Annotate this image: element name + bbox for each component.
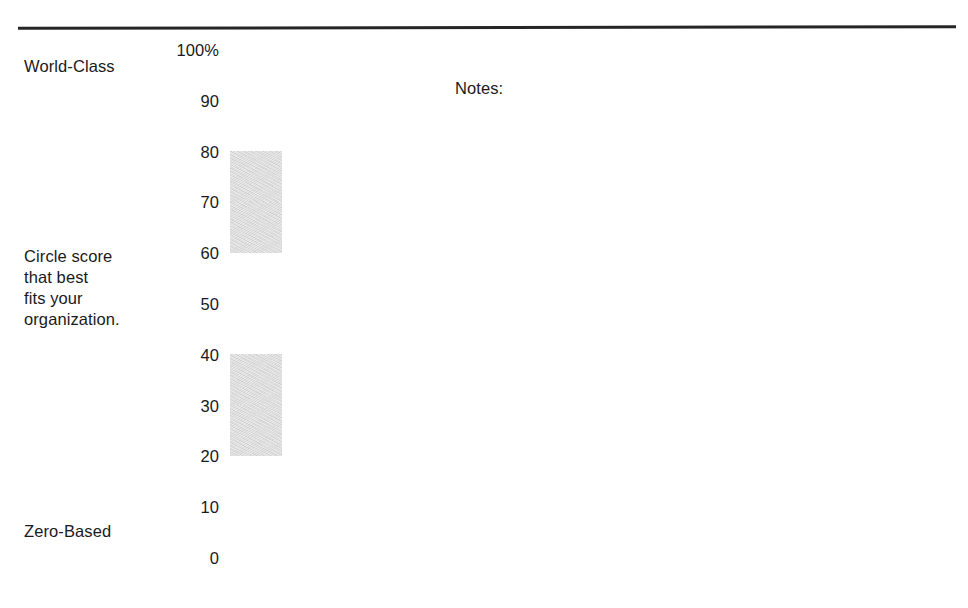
- scale-top-anchor-label: World-Class: [24, 56, 115, 77]
- scale-column[interactable]: [230, 50, 282, 558]
- scale-cell[interactable]: [230, 304, 282, 357]
- scale-tick-label: 50: [130, 294, 219, 314]
- scale-cell[interactable]: [230, 507, 282, 560]
- scale-instruction-text: Circle score that best fits your organiz…: [24, 246, 120, 330]
- scale-cell[interactable]: [230, 405, 282, 458]
- scale-cell[interactable]: [230, 253, 282, 306]
- scale-tick-labels: 100%9080706050403020100: [130, 41, 219, 557]
- scale-tick-label: 30: [130, 396, 219, 416]
- scale-tick-label: 70: [130, 192, 219, 212]
- scale-cell[interactable]: [230, 202, 282, 255]
- scale-cell[interactable]: [230, 100, 282, 153]
- scale-tick-label: 100%: [130, 40, 219, 60]
- document-page: World-Class Circle score that best fits …: [0, 0, 968, 608]
- scale-cell[interactable]: [230, 354, 282, 407]
- top-divider-rule: [18, 25, 956, 30]
- scale-cell[interactable]: [230, 151, 282, 204]
- scale-bottom-anchor-label: Zero-Based: [24, 521, 111, 542]
- scale-tick-label: 10: [130, 497, 219, 517]
- scale-tick-label: 0: [130, 548, 219, 568]
- scale-tick-label: 20: [130, 446, 219, 466]
- scale-cell[interactable]: [230, 50, 282, 103]
- notes-heading: Notes:: [455, 78, 503, 98]
- scale-tick-label: 90: [130, 91, 219, 111]
- scale-tick-label: 40: [130, 345, 219, 365]
- notes-writing-area[interactable]: [455, 104, 935, 544]
- scale-tick-label: 80: [130, 142, 219, 162]
- scale-tick-label: 60: [130, 243, 219, 263]
- scale-cell[interactable]: [230, 456, 282, 509]
